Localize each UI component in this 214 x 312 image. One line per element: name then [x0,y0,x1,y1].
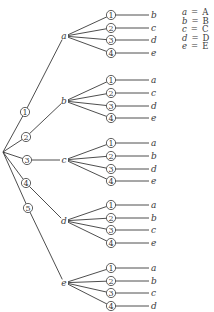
leaf-number: 1 [108,264,113,273]
leaf-number: 4 [108,114,113,123]
leaf-number: 3 [108,226,113,235]
leaf-label: a [151,200,156,210]
edge-choice-to-node-b [29,104,61,134]
edge-node-d-to-leaf-2 [68,218,106,220]
leaf-label: c [151,225,156,235]
edge-node-e-to-leaf-2 [68,281,106,282]
leaf-label: e [151,176,156,186]
edge-node-e-to-leaf-4 [68,284,107,304]
leaf-label: b [151,151,157,161]
tree-canvas: 1a1b2c3d4e2b1a2c3d4e3c1a2b3d4e4d1a2b3c4e… [0,0,214,312]
node-label-b: b [61,96,67,106]
leaf-number: 3 [108,36,113,45]
leaf-number: 2 [108,277,113,286]
leaf-number: 2 [108,214,113,223]
leaf-label: c [151,88,156,98]
leaf-label: b [151,213,157,223]
leaf-number: 3 [108,289,113,298]
choice-number-5: 5 [25,204,30,213]
leaf-label: a [151,263,156,273]
edge-node-e-to-leaf-3 [68,283,107,292]
leaf-number: 2 [108,24,113,33]
edge-node-b-to-leaf-3 [68,101,106,105]
edge-root-to-choice-1 [3,116,23,152]
leaf-number: 3 [108,165,113,174]
leaf-number: 4 [108,239,113,248]
choice-number-1: 1 [22,108,27,117]
node-label-e: e [61,278,66,288]
leaf-number: 4 [108,302,113,311]
leaf-label: a [151,75,156,85]
legend-eq: = [191,41,198,51]
edge-node-b-to-leaf-4 [68,102,107,116]
leaf-label: e [151,48,156,58]
leaf-number: 1 [108,201,113,210]
leaf-label: a [151,138,156,148]
leaf-label: d [151,301,157,311]
leaf-label: e [151,113,156,123]
node-label-c: c [61,155,66,165]
leaf-label: d [151,35,157,45]
choice-number-3: 3 [24,156,29,165]
legend-var: e [182,41,187,51]
edge-node-d-to-leaf-1 [68,206,107,219]
leaf-number: 1 [108,76,113,85]
choice-number-2: 2 [23,133,28,142]
edge-choice-to-node-a [27,40,62,108]
leaf-label: c [151,23,156,33]
legend-value: E [202,41,208,51]
edge-node-e-to-leaf-1 [68,269,107,281]
leaf-number: 1 [108,139,113,148]
edge-choice-to-node-d [29,186,61,218]
leaf-number: 1 [108,11,113,20]
leaf-number: 2 [108,152,113,161]
edge-root-to-choice-2 [3,140,22,152]
edge-choice-to-node-e [30,212,62,279]
leaf-label: b [151,10,157,20]
leaf-number: 4 [108,177,113,186]
leaf-label: d [151,101,157,111]
tree-diagram: 1a1b2c3d4e2b1a2c3d4e3c1a2b3d4e4d1a2b3c4e… [0,0,214,312]
legend-entry-e: e=E [182,41,208,51]
leaf-label: d [151,164,157,174]
node-label-a: a [61,31,66,41]
leaf-label: e [151,238,156,248]
node-label-d: d [61,216,67,226]
leaf-label: c [151,288,156,298]
choice-number-4: 4 [23,179,28,188]
leaf-number: 2 [108,89,113,98]
leaf-label: b [151,276,157,286]
leaf-number: 4 [108,49,113,58]
leaf-number: 3 [108,102,113,111]
